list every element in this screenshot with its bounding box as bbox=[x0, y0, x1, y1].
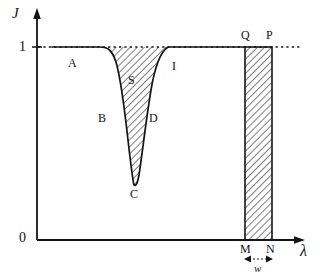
y-axis-label: J bbox=[12, 6, 19, 21]
width-label: w bbox=[254, 263, 261, 274]
absorption-profile-figure: J λ 1 0 A B C D I S Q P M N w bbox=[0, 0, 320, 276]
point-label-b: B bbox=[98, 112, 106, 124]
y-tick-label-one: 1 bbox=[19, 40, 26, 54]
equivalent-width-rectangle-shape bbox=[245, 47, 272, 240]
point-label-q: Q bbox=[241, 29, 250, 41]
point-label-c: C bbox=[130, 188, 138, 200]
area-label-s: S bbox=[128, 74, 135, 86]
point-label-i: I bbox=[172, 60, 176, 72]
point-label-m: M bbox=[240, 243, 251, 255]
y-tick-label-zero: 0 bbox=[19, 231, 26, 245]
point-label-p: P bbox=[266, 29, 273, 41]
point-label-a: A bbox=[68, 57, 77, 69]
x-axis-label: λ bbox=[300, 243, 307, 259]
point-label-n: N bbox=[266, 243, 275, 255]
point-label-d: D bbox=[149, 112, 158, 124]
y-axis bbox=[33, 8, 41, 240]
